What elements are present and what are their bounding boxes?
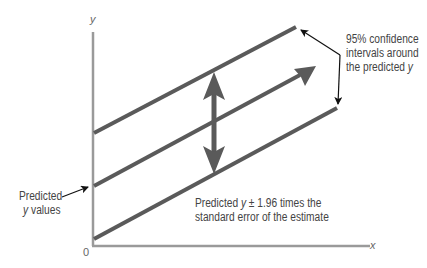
regression-line xyxy=(94,75,300,186)
confidence-pointer xyxy=(301,30,340,104)
x-axis-label: x xyxy=(370,239,376,251)
origin-label: 0 xyxy=(83,246,89,258)
band-annotation: Predicted y ± 1.96 times the standard er… xyxy=(195,196,329,224)
upper-confidence-line xyxy=(94,27,296,133)
confidence-intervals-annotation: 95% confidence intervals around the pred… xyxy=(346,32,419,74)
predicted-values-pointer xyxy=(62,187,88,197)
predicted-values-annotation: Predicted y values xyxy=(19,189,62,217)
y-axis-label: y xyxy=(90,13,96,25)
band-width-double-arrow xyxy=(203,72,225,174)
